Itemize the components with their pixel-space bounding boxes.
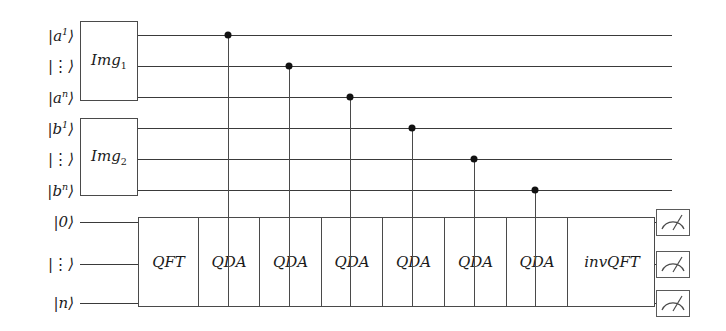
gate-cell-qda-3[interactable]: QDA [321,218,382,306]
wire-b1-out [138,128,672,129]
wire-adots-out [138,66,672,67]
control-dot-ctrl-6 [532,187,539,194]
register-label-qn: |n⟩ [53,294,74,312]
register-label-a1: |a1⟩ [48,26,74,45]
input-gate-label-img2: Img2 [91,147,127,167]
wire-a1-out [138,35,672,36]
register-label-qdots: |⋮⟩ [48,255,74,273]
register-label-adots: |⋮⟩ [48,57,74,75]
control-line-ctrl-4 [412,128,413,307]
gate-cell-label-qda-6: QDA [519,253,554,271]
input-gate-img1: Img1 [80,21,138,101]
control-dot-ctrl-3 [347,94,354,101]
register-label-b1: |b1⟩ [47,119,74,138]
control-line-ctrl-5 [474,159,475,307]
operation-block: QFTQDAQDAQDAQDAQDAQDAinvQFT [138,217,655,307]
gate-cell-label-invqft: invQFT [584,253,640,271]
control-dot-ctrl-1 [225,32,232,39]
gate-cell-qda-6[interactable]: QDA [506,218,567,306]
gate-cell-label-qda-3: QDA [334,253,369,271]
wire-bdots-out [138,159,672,160]
input-gate-img2: Img2 [80,118,138,196]
control-dot-ctrl-4 [409,125,416,132]
gate-cell-qda-5[interactable]: QDA [444,218,506,306]
gate-cell-label-qda-5: QDA [458,253,493,271]
measurement-meter-icon [656,209,690,236]
measurement-meter-icon [656,290,690,317]
register-label-q0: |0⟩ [54,213,74,231]
gate-cell-label-qda-4: QDA [396,253,431,271]
gate-cell-label-qft: QFT [152,253,185,271]
control-line-ctrl-3 [350,97,351,307]
gate-cell-qda-2[interactable]: QDA [259,218,321,306]
gate-cell-invqft[interactable]: invQFT [567,218,656,306]
input-gate-label-img1: Img1 [91,51,127,71]
wire-an-out [138,97,672,98]
wire-qn-in [80,303,138,304]
gate-cell-label-qda-2: QDA [273,253,308,271]
control-line-ctrl-6 [535,190,536,307]
register-label-an: |an⟩ [48,88,74,107]
gate-cell-label-qda-1: QDA [211,253,246,271]
control-dot-ctrl-2 [286,63,293,70]
register-label-bn: |bn⟩ [47,181,74,200]
control-line-ctrl-2 [289,66,290,307]
register-label-bdots: |⋮⟩ [48,150,74,168]
wire-bn-out [138,190,672,191]
wire-q0-in [80,222,138,223]
control-line-ctrl-1 [228,35,229,307]
wire-qdots-in [80,264,138,265]
gate-cell-qft[interactable]: QFT [139,218,198,306]
quantum-circuit-figure: |a1⟩|⋮⟩|an⟩|b1⟩|⋮⟩|bn⟩|0⟩|⋮⟩|n⟩ Img1Img2… [0,0,726,331]
gate-cell-qda-4[interactable]: QDA [382,218,444,306]
control-dot-ctrl-5 [471,156,478,163]
measurement-meter-icon [656,251,690,278]
